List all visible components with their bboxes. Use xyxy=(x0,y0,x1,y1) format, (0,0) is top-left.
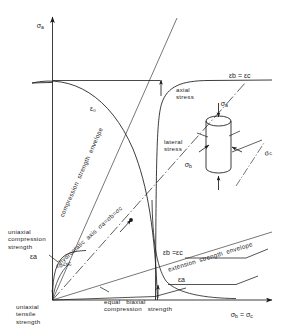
hydrostatic-arrow xyxy=(120,220,131,232)
lateral-stress-label: lateral stress xyxy=(164,138,183,153)
axial-stress-label: axial stress xyxy=(176,86,194,101)
lateral-stress-arrow-left xyxy=(199,145,209,152)
eps-zero-curve-compression xyxy=(32,81,158,300)
eps-a-right-line-tail xyxy=(236,276,258,285)
eps-a-left-label: εa xyxy=(30,253,37,261)
compression-strength-envelope-line xyxy=(53,18,178,300)
eps-a-right-label: εa xyxy=(178,276,185,284)
stress-strain-diagram: σa σb = σc ε₀ compression strength envel… xyxy=(0,0,284,327)
bottom-base-line-right xyxy=(155,288,186,297)
horizontal-axis-label: σb = σc xyxy=(223,303,253,327)
vertical-axis-label: σa xyxy=(29,14,44,39)
eps-bc-mid-line-tail xyxy=(246,249,268,258)
equal-biaxial-compression-strength-label: equal biaxial compression strength xyxy=(104,298,172,313)
eps-bc-mid-label: εb =εc xyxy=(163,249,183,257)
cylinder-body xyxy=(206,121,231,173)
uniaxial-tensile-strength-label: uniaxial tensile strength xyxy=(16,303,40,325)
specimen-axial-symbol: σa xyxy=(213,92,228,117)
eps-bc-top-right-label: εb = εc xyxy=(229,72,251,80)
eps-zero-curve-left-tail xyxy=(32,82,53,83)
diagram-vector-layer xyxy=(0,0,284,327)
leader-equal-biaxial xyxy=(100,287,109,292)
eps-zero-curve-label: ε₀ xyxy=(90,105,96,113)
specimen-lateral-symbol: σb xyxy=(177,153,192,178)
uniaxial-compression-strength-label: uniaxial compression strength xyxy=(8,228,46,250)
cylinder-top-ellipse xyxy=(206,116,231,126)
